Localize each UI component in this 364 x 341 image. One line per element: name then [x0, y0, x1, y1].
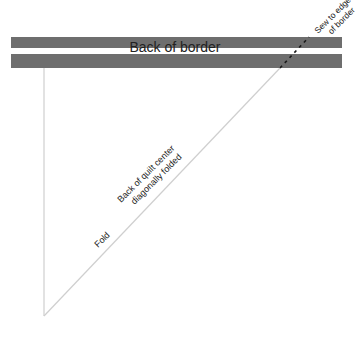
fold-label: Fold	[92, 230, 111, 249]
fold-label-group: Fold	[92, 230, 111, 249]
back-of-border-label: Back of border	[129, 39, 220, 55]
folded-quilt-triangle	[44, 68, 280, 316]
quilt-border-diagram: Back of border Sew to edge of border Bac…	[0, 0, 364, 341]
sew-label-group: Sew to edge of border	[312, 0, 360, 42]
quilt-center-label-group: Back of quilt center diagonally folded	[115, 143, 184, 212]
fold-diagonal-line	[44, 68, 280, 316]
